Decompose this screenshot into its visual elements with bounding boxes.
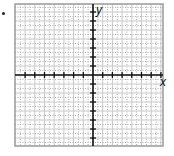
coordinate-grid	[0, 0, 174, 156]
y-axis-label: y	[96, 4, 102, 16]
coordinate-plane-figure: x y	[0, 0, 174, 156]
x-axis-label: x	[160, 76, 166, 88]
